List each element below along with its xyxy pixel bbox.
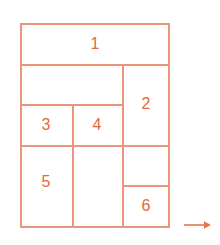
- outer-right-edge: [168, 23, 170, 226]
- divider-below-cell-3: [20, 145, 170, 147]
- outer-top-edge: [20, 23, 170, 25]
- divider-above-cell-3: [20, 104, 122, 106]
- cell-label-3: 3: [42, 117, 51, 133]
- cell-label-5: 5: [42, 174, 51, 190]
- rectangle-partition-diagram: 1 2 3 4 5 6: [20, 23, 170, 226]
- divider-below-cell-1: [20, 64, 170, 66]
- divider-above-cell-6: [122, 185, 170, 187]
- divider-between-3-and-4: [72, 104, 74, 226]
- right-arrow-icon: [183, 218, 212, 232]
- outer-bottom-edge: [20, 226, 170, 228]
- outer-left-edge: [20, 23, 22, 226]
- diagram-canvas: 1 2 3 4 5 6: [0, 0, 220, 245]
- cell-label-4: 4: [93, 117, 102, 133]
- divider-left-of-column-2-6: [122, 64, 124, 226]
- cell-label-2: 2: [142, 96, 151, 112]
- cell-label-1: 1: [91, 36, 100, 52]
- cell-label-6: 6: [142, 198, 151, 214]
